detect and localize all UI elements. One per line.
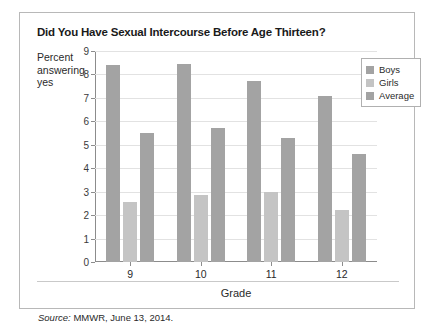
bar: [318, 96, 332, 262]
plot-area: 0123456789 9101112: [95, 51, 377, 262]
y-tick-label: 1: [83, 233, 89, 244]
gridline: [95, 74, 377, 75]
legend-label: Boys: [379, 64, 400, 75]
bar: [123, 202, 137, 262]
gridline: [95, 145, 377, 146]
y-tick-mark: [91, 192, 95, 193]
legend-item: Average: [366, 89, 414, 102]
source-divider: [37, 281, 399, 282]
chart-title: Did You Have Sexual Intercourse Before A…: [37, 26, 325, 38]
x-tick-mark: [271, 262, 272, 266]
y-tick-label: 2: [83, 210, 89, 221]
y-tick-label: 5: [83, 139, 89, 150]
y-tick-label: 6: [83, 116, 89, 127]
y-tick-mark: [91, 98, 95, 99]
legend-label: Average: [379, 90, 414, 101]
y-tick-mark: [91, 262, 95, 263]
bar: [194, 195, 208, 262]
legend-swatch-icon: [366, 79, 374, 87]
bar: [247, 81, 261, 262]
y-tick-label: 0: [83, 257, 89, 268]
y-tick-label: 7: [83, 92, 89, 103]
chart-figure: Did You Have Sexual Intercourse Before A…: [19, 12, 415, 309]
y-axis-label: Percent answering yes: [37, 51, 103, 89]
bar: [335, 210, 349, 262]
gridline: [95, 168, 377, 169]
legend-label: Girls: [379, 77, 399, 88]
y-tick-mark: [91, 51, 95, 52]
source-note: Source: MMWR, June 13, 2014.: [38, 312, 173, 323]
y-tick-mark: [91, 168, 95, 169]
bar: [106, 65, 120, 262]
y-tick-label: 4: [83, 163, 89, 174]
gridline: [95, 121, 377, 122]
bar: [264, 192, 278, 262]
x-tick-label: 12: [336, 268, 348, 280]
x-tick-mark: [130, 262, 131, 266]
x-tick-label: 11: [266, 268, 277, 280]
y-tick-mark: [91, 121, 95, 122]
bar: [352, 154, 366, 262]
bar: [281, 138, 295, 262]
gridline: [95, 51, 377, 52]
bar: [211, 128, 225, 262]
y-tick-label: 3: [83, 186, 89, 197]
x-tick-label: 10: [195, 268, 207, 280]
y-tick-label: 9: [83, 46, 89, 57]
legend-swatch-icon: [366, 66, 374, 74]
y-tick-mark: [91, 145, 95, 146]
y-tick-mark: [91, 74, 95, 75]
source-label: Source:: [38, 312, 71, 323]
gridline: [95, 192, 377, 193]
legend-item: Boys: [366, 63, 414, 76]
x-tick-mark: [342, 262, 343, 266]
x-tick-label: 9: [127, 268, 133, 280]
x-axis-label: Grade: [95, 287, 377, 299]
y-tick-mark: [91, 239, 95, 240]
chart-legend: BoysGirlsAverage: [361, 58, 421, 107]
legend-swatch-icon: [366, 92, 374, 100]
bar: [177, 64, 191, 262]
y-tick-mark: [91, 215, 95, 216]
source-value: MMWR, June 13, 2014.: [71, 312, 173, 323]
x-tick-mark: [201, 262, 202, 266]
gridline: [95, 98, 377, 99]
bar: [140, 133, 154, 262]
y-tick-label: 8: [83, 69, 89, 80]
legend-item: Girls: [366, 76, 414, 89]
